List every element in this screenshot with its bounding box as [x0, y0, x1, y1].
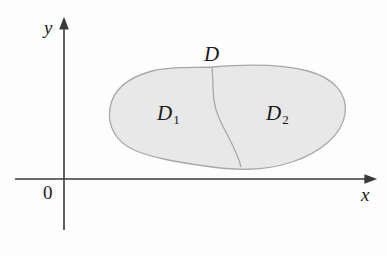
x-axis-label: x [361, 185, 369, 204]
figure-container: y x 0 D D1 D2 [0, 0, 387, 256]
region-d2-label: D2 [266, 103, 289, 126]
region-d1-subscript: 1 [172, 112, 180, 127]
region-d-shape [109, 65, 345, 169]
origin-label: 0 [43, 183, 53, 202]
region-d2-base: D [266, 101, 281, 125]
figure-graphic [0, 0, 387, 256]
region-d1-base: D [157, 101, 172, 125]
region-d2-subscript: 2 [281, 112, 289, 127]
y-axis-label: y [44, 18, 52, 37]
region-d-label: D [204, 44, 219, 65]
region-d1-label: D1 [157, 103, 180, 126]
